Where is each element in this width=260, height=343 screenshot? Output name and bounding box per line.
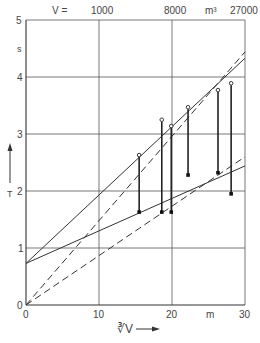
y-unit: s <box>17 44 22 54</box>
x-axis-label: ∛V <box>117 322 133 336</box>
x-tick-10: 10 <box>93 309 105 320</box>
open-circle-marker <box>169 124 173 128</box>
fit-line-solid-steep <box>26 58 245 263</box>
y-tick-2: 2 <box>17 186 23 197</box>
open-circle-marker <box>137 153 141 157</box>
top-axis-unit: m³ <box>205 5 217 16</box>
y-tick-1: 1 <box>18 243 24 254</box>
chart: V = 1000 8000 m³ 27000 5 s 4 3 2 1 0 T 0… <box>0 0 260 343</box>
filled-square-marker <box>137 210 141 214</box>
open-circle-marker <box>186 105 190 109</box>
x-tick-30: 30 <box>239 309 251 320</box>
y-tick-3: 3 <box>17 129 23 140</box>
fit-line-solid-shallow <box>26 166 245 263</box>
data-markers <box>137 81 233 213</box>
grid <box>26 20 245 305</box>
y-tick-4: 4 <box>17 72 23 83</box>
filled-square-marker <box>229 192 233 196</box>
open-circle-marker <box>229 81 233 85</box>
top-tick-8000: 8000 <box>164 5 187 16</box>
fit-lines <box>26 52 245 305</box>
x-axis-arrow-icon <box>136 327 160 332</box>
x-tick-0: 0 <box>23 309 29 320</box>
open-circle-marker <box>216 88 220 92</box>
filled-square-marker <box>216 171 220 175</box>
y-axis-label: T <box>7 189 13 199</box>
x-unit: m <box>206 309 214 320</box>
y-tick-5: 5 <box>16 15 22 26</box>
x-tick-20: 20 <box>166 309 178 320</box>
y-axis-arrow-icon <box>8 143 13 183</box>
filled-square-marker <box>186 173 190 177</box>
filled-square-marker <box>169 210 173 214</box>
filled-square-marker <box>160 210 164 214</box>
top-tick-1000: 1000 <box>91 5 114 16</box>
top-tick-27000: 27000 <box>230 5 258 16</box>
top-axis-prefix: V = <box>52 5 67 16</box>
open-circle-marker <box>160 118 164 122</box>
axes <box>26 20 245 305</box>
